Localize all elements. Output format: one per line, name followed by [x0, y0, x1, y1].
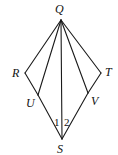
angle-1-label: 1 [54, 116, 60, 128]
segment-qt [61, 20, 101, 73]
segment-ru [25, 73, 38, 95]
geometry-diagram: Q R T U V S 1 2 [0, 0, 118, 155]
segment-tv [88, 73, 101, 93]
segment-qs [61, 20, 62, 139]
label-u: U [26, 96, 36, 110]
segments [25, 20, 101, 139]
angle-2-label: 2 [64, 116, 70, 128]
label-s: S [57, 142, 63, 155]
label-t: T [105, 65, 113, 79]
label-v: V [91, 94, 100, 108]
segment-qr [25, 20, 61, 73]
label-r: R [11, 66, 20, 80]
label-q: Q [55, 2, 64, 16]
segment-qv [61, 20, 88, 93]
segment-qu [38, 20, 61, 95]
